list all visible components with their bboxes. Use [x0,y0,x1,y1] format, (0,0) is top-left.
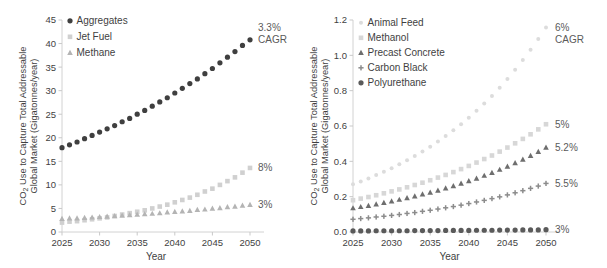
data-point [528,186,533,191]
legend-label: Methane [77,47,116,58]
x-tick-label: 2045 [202,237,223,248]
cagr-annotation: 5.5% [555,178,578,189]
data-point [420,228,425,233]
data-point [67,142,72,147]
legend-label: Jet Fuel [77,31,113,42]
data-point [397,162,401,166]
data-point [543,227,548,232]
y-axis-title-line1: CO2 Use to Capture Total Addressable [18,47,29,206]
data-point [358,216,363,221]
legend-entry: Jet Fuel [68,31,112,42]
data-point [451,128,455,132]
data-point [505,227,510,232]
cagr-value: 5.2% [555,142,578,153]
data-point [150,104,155,109]
data-point [505,145,510,150]
data-point [188,195,193,200]
data-point [350,205,356,210]
data-point [359,179,363,183]
data-point [157,204,162,209]
data-point [217,205,223,210]
y-tick-label: 0.2 [334,191,347,202]
data-point [420,180,425,185]
data-point [89,133,94,138]
data-point [451,170,456,175]
data-point [404,228,409,233]
data-point [528,153,534,158]
y-tick-label: 0.8 [334,85,347,96]
y-tick-label: 0.6 [334,120,347,131]
data-point [358,50,364,55]
data-point [225,179,230,184]
data-point [520,188,525,193]
data-point [358,228,363,233]
cagr-value: 3% [258,199,273,210]
data-point [489,228,494,233]
data-point [350,228,355,233]
series-methane [59,202,253,221]
data-point [436,175,441,180]
legend-entry: Precast Concrete [358,47,445,58]
y-tick-label: 25 [45,109,56,120]
y-tick-label: 0.4 [334,156,347,167]
series-jet-fuel [60,166,253,225]
data-point [412,228,417,233]
y-tick-label: 40 [45,38,56,49]
data-point [451,228,456,233]
data-point [389,189,394,194]
data-point [451,204,456,209]
data-point [120,119,125,124]
data-point [543,145,549,150]
legend-label: Carbon Black [368,62,429,73]
figure-container: 0510152025303540452025203020352040204520… [0,0,607,268]
data-point [505,192,510,197]
data-point [112,123,117,128]
data-point [505,77,509,81]
cagr-suffix: CAGR [258,34,287,45]
data-point [366,176,370,180]
legend-entry: Animal Feed [359,17,424,28]
data-point [350,217,355,222]
data-point [195,192,200,197]
y-tick-label: 5 [51,203,56,214]
data-point [225,55,230,60]
data-point [513,68,517,72]
data-point [217,60,222,65]
data-point [489,170,495,175]
data-point [397,228,402,233]
data-point [435,206,440,211]
data-point [490,153,495,158]
data-point [149,211,155,216]
data-point [248,166,253,171]
data-point [497,227,502,232]
data-point [428,228,433,233]
series-precast-concrete [350,145,549,211]
data-point [520,227,525,232]
data-point [366,228,371,233]
data-point [381,214,386,219]
data-point [59,216,65,221]
data-point [458,181,464,186]
data-point [413,154,417,158]
y-tick-label: 10 [45,179,56,190]
data-point [374,214,379,219]
data-point [497,167,503,172]
data-point [498,86,502,90]
data-point [466,228,471,233]
data-point [187,208,193,213]
data-point [404,211,409,216]
data-point [127,116,132,121]
data-point [358,196,363,201]
x-tick-label: 2050 [535,237,556,248]
data-point [389,198,395,203]
y-tick-label: 15 [45,156,56,167]
data-point [382,170,386,174]
data-point [521,137,526,142]
data-point [474,160,479,165]
data-point [412,183,417,188]
data-point [165,202,170,207]
data-point [405,158,409,162]
data-point [97,130,102,135]
x-tick-label: 2040 [164,237,185,248]
cagr-value: 3.3% [258,22,281,33]
